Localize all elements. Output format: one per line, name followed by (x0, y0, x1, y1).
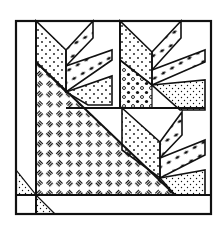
quilt-block-drawing (0, 0, 224, 231)
top-right-star (120, 21, 205, 110)
